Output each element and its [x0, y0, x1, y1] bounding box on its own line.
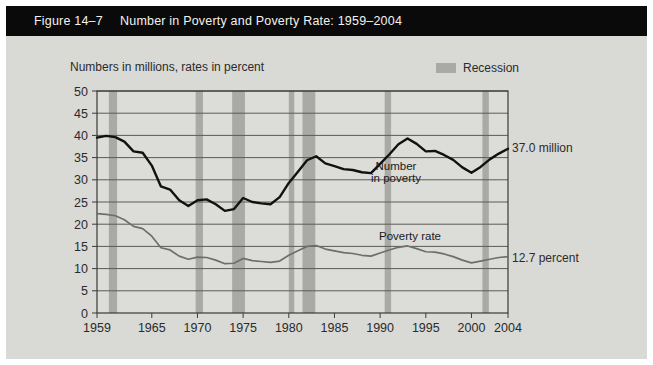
figure-number: Figure 14–7: [34, 14, 103, 28]
chart-legend: Recession: [436, 61, 519, 75]
legend-item-recession: Recession: [463, 61, 519, 75]
figure-title: Number in Poverty and Poverty Rate: 1959…: [120, 14, 402, 28]
figure-title-bar: Figure 14–7 Number in Poverty and Povert…: [6, 6, 647, 36]
figure-container: Figure 14–7 Number in Poverty and Povert…: [0, 0, 653, 365]
annotation-number-end-value: 37.0 million: [512, 141, 573, 155]
figure-panel: [6, 6, 647, 359]
recession-swatch-icon: [436, 63, 456, 73]
annotation-rate-end-value: 12.7 percent: [512, 251, 579, 265]
chart-subtitle: Numbers in millions, rates in percent: [70, 60, 264, 74]
